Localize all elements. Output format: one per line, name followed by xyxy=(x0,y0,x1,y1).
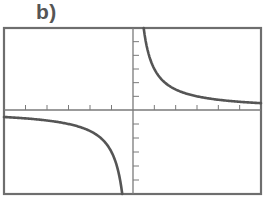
curve-positive-branch xyxy=(144,28,261,103)
hyperbola-chart xyxy=(0,0,263,216)
curve-negative-branch xyxy=(4,117,122,194)
axes xyxy=(4,28,261,194)
